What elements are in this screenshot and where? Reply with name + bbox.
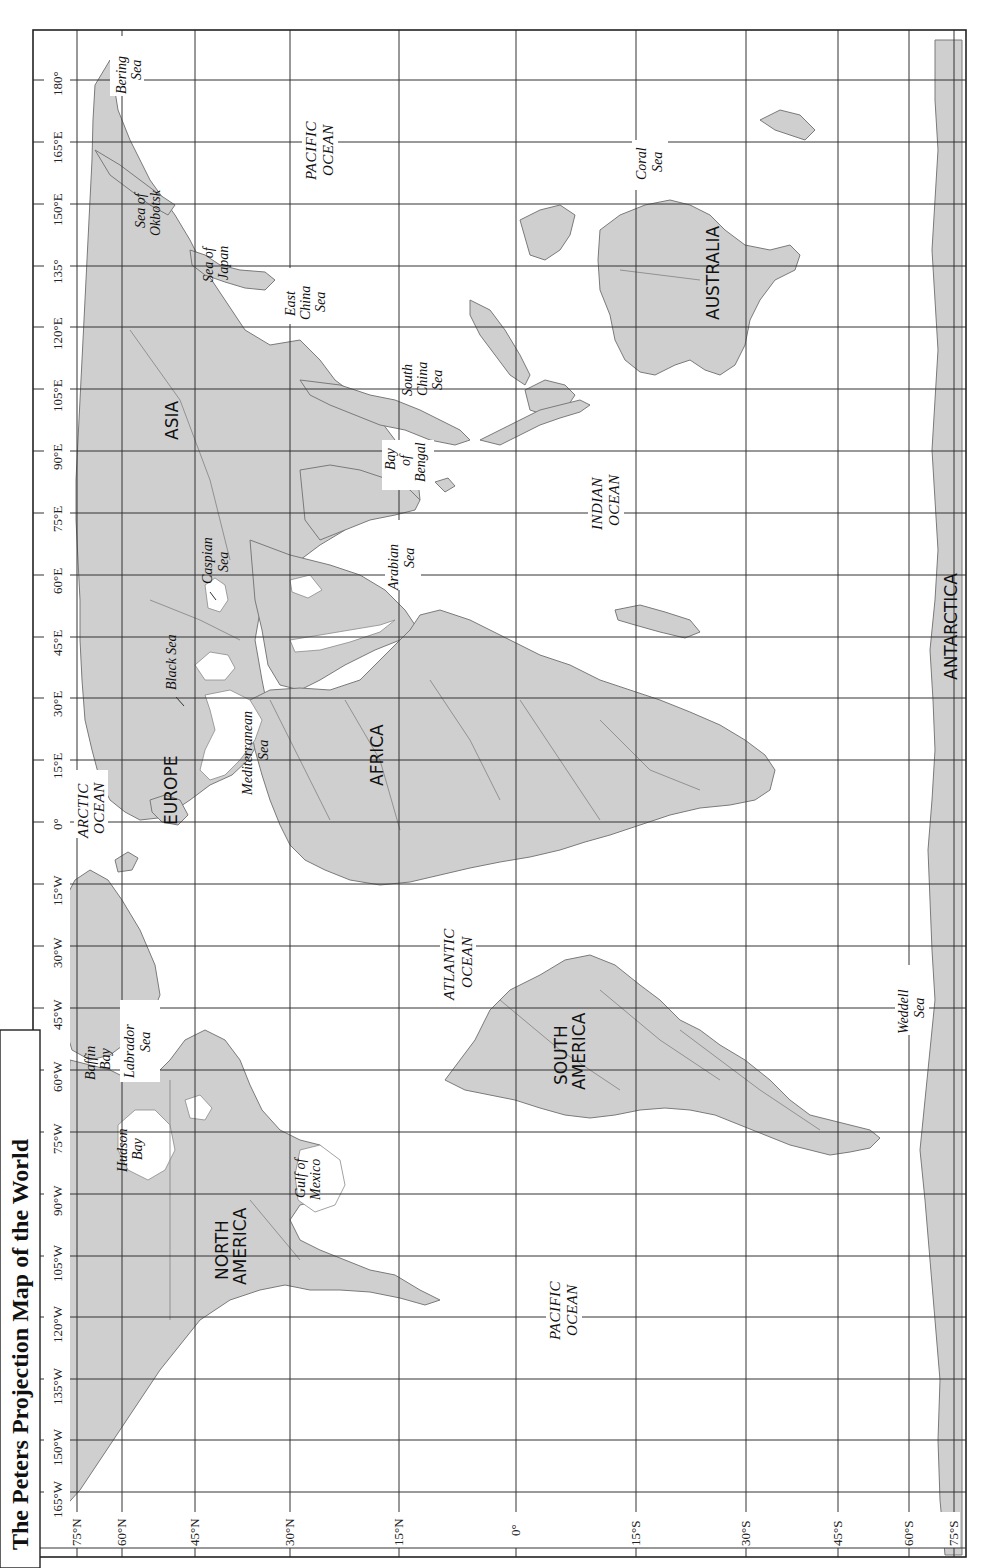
lat-label: 30°S [738, 1521, 753, 1546]
label-arabian-sea-line1: Arabian [386, 544, 401, 591]
label-indian-ocean-line1: INDIAN [589, 477, 605, 531]
lon-label: 180° [50, 71, 65, 96]
label-arctic-ocean-line1: ARCTIC [75, 783, 91, 839]
label-baffin-bay-line2: Bay [98, 1047, 113, 1070]
peters-projection-map: The Peters Projection Map of the World 1… [0, 0, 986, 1568]
label-gulf-of-mexico-line1: Gulf of [293, 1157, 308, 1198]
lon-label: 135° [50, 259, 65, 284]
lon-label: 60°W [50, 1061, 65, 1092]
label-bering-sea-line1: Bering [114, 56, 129, 94]
label-black-sea: Black Sea [164, 634, 179, 690]
lon-label: 0° [50, 818, 65, 830]
label-bay-of-bengal-line3: Bengal [413, 442, 428, 482]
label-pacific-ocean-east-line2: OCEAN [320, 124, 336, 176]
lat-label: 15°S [628, 1521, 643, 1546]
label-hudson-bay-line1: Hudson [115, 1128, 130, 1173]
label-pacific-ocean-west-line2: OCEAN [564, 1284, 580, 1336]
label-hudson-bay-line2: Bay [130, 1137, 145, 1160]
label-north-america-line2: AMERICA [230, 1207, 250, 1285]
label-north-america-line1: NORTH [212, 1220, 232, 1280]
landmass-new-guinea [520, 205, 575, 260]
label-coral-sea-line2: Sea [650, 152, 665, 172]
lon-label: 105°W [50, 1244, 65, 1282]
lon-label: 15°E [50, 753, 65, 779]
lon-label: 90°W [50, 1185, 65, 1216]
label-indian-ocean-line2: OCEAN [606, 474, 622, 526]
label-japan-sea-line1: Sea of [201, 245, 216, 282]
label-baffin-bay-line1: Baffin [83, 1046, 98, 1080]
lat-label: 15°N [391, 1518, 406, 1546]
landmass-australia [598, 200, 800, 375]
label-pacific-ocean-east-line1: PACIFIC [303, 120, 319, 181]
label-asia: ASIA [162, 401, 182, 440]
label-atlantic-ocean-line2: OCEAN [459, 936, 475, 988]
label-south-china-sea-line2: China [415, 362, 430, 396]
label-arabian-sea-line2: Sea [402, 548, 417, 568]
landmass-antarctica [920, 40, 962, 1555]
label-pacific-ocean-west-line1: PACIFIC [547, 1280, 563, 1341]
lon-label: 30°E [50, 691, 65, 717]
label-okhotsk-sea-line1: Sea of [133, 191, 148, 228]
lon-label: 135°W [50, 1367, 65, 1405]
label-bay-of-bengal-line1: Bay [383, 447, 398, 470]
lat-label: 45°N [187, 1518, 202, 1546]
landmass-madagascar [615, 605, 700, 638]
label-gulf-of-mexico-line2: Mexico [308, 1159, 323, 1201]
lon-label: 150°W [50, 1428, 65, 1466]
label-japan-sea-line2: Japan [216, 246, 231, 280]
lon-label: 45°E [50, 630, 65, 656]
landmass-iceland [115, 852, 138, 872]
label-australia: AUSTRALIA [703, 226, 723, 320]
label-caspian-sea-line1: Caspian [200, 537, 215, 584]
label-arctic-ocean-line2: OCEAN [91, 782, 107, 834]
lat-label: 75°N [69, 1518, 84, 1546]
label-south-china-sea-line1: South [400, 364, 415, 396]
lon-label: 15°W [50, 875, 65, 906]
label-antarctica: ANTARCTICA [941, 573, 961, 680]
label-coral-sea-line1: Coral [634, 147, 649, 180]
lon-label: 30°W [50, 937, 65, 968]
label-caspian-sea-line2: Sea [216, 552, 231, 572]
label-south-china-sea-line3: Sea [430, 370, 445, 390]
lat-label: 0° [508, 1524, 523, 1536]
label-okhotsk-sea-line2: Okbotsk [148, 189, 163, 236]
label-east-china-sea-line1: East [283, 290, 298, 317]
map-title: The Peters Projection Map of the World [7, 1138, 33, 1550]
label-weddell-sea-line2: Sea [912, 998, 927, 1018]
label-europe: EUROPE [161, 756, 181, 825]
lon-label: 90°E [50, 444, 65, 470]
label-bering-sea-line2: Sea [129, 60, 144, 80]
landmass-new-zealand [760, 110, 815, 140]
lat-label: 60°S [901, 1521, 916, 1546]
lat-label: 30°N [282, 1518, 297, 1546]
label-mediterranean-sea-line1: Mediterranean [240, 711, 255, 796]
label-atlantic-ocean-line1: ATLANTIC [441, 928, 457, 1001]
lon-label: 105°E [50, 379, 65, 412]
label-labrador-sea-line1: Labrador [122, 1024, 137, 1079]
label-south-america-line1: SOUTH [551, 1025, 571, 1085]
lon-label: 60°E [50, 568, 65, 594]
label-south-america-line2: AMERICA [569, 1012, 589, 1090]
label-weddell-sea-line1: Weddell [896, 989, 911, 1034]
lat-label: 45°S [830, 1521, 845, 1546]
lon-label: 75°E [50, 506, 65, 532]
label-east-china-sea-line2: China [298, 286, 313, 320]
label-africa: AFRICA [367, 724, 387, 786]
lat-label: 75°S [946, 1521, 961, 1546]
land-layer [55, 40, 962, 1555]
landmass-south-america [445, 955, 880, 1155]
label-labrador-sea-line2: Sea [138, 1032, 153, 1052]
lon-label: 45°W [50, 999, 65, 1030]
lon-label: 165°W [50, 1480, 65, 1518]
lon-label: 150°E [50, 193, 65, 226]
lon-label: 120°W [50, 1305, 65, 1343]
lon-label: 75°W [50, 1123, 65, 1154]
lat-label: 60°N [114, 1518, 129, 1546]
lon-label: 165°E [50, 131, 65, 164]
landmass-sri-lanka [435, 478, 455, 492]
label-east-china-sea-line3: Sea [313, 292, 328, 312]
lon-label: 120°E [50, 317, 65, 350]
label-mediterranean-sea-line2: Sea [256, 740, 271, 760]
landmass-indonesia [470, 300, 530, 385]
